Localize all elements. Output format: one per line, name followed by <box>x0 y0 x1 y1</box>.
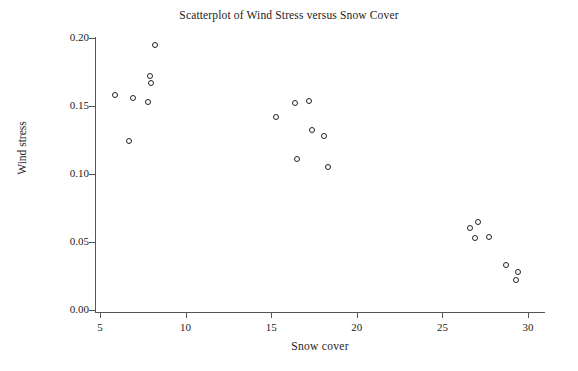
data-point <box>325 164 331 170</box>
data-point <box>294 156 300 162</box>
data-point <box>475 219 481 225</box>
data-point <box>147 73 153 79</box>
data-point <box>467 225 473 231</box>
plot-area <box>0 0 578 371</box>
data-point <box>513 277 519 283</box>
data-point <box>321 133 327 139</box>
data-point <box>515 269 521 275</box>
data-point <box>273 114 279 120</box>
data-point <box>148 80 154 86</box>
data-point <box>112 92 118 98</box>
data-point <box>130 95 136 101</box>
data-point <box>145 99 151 105</box>
data-point <box>472 235 478 241</box>
data-point <box>309 127 315 133</box>
data-point <box>126 138 132 144</box>
data-point <box>152 42 158 48</box>
data-point <box>292 100 298 106</box>
data-point <box>306 98 312 104</box>
scatterplot-figure: Scatterplot of Wind Stress versus Snow C… <box>0 0 578 371</box>
data-point <box>486 234 492 240</box>
data-point <box>503 262 509 268</box>
